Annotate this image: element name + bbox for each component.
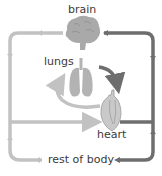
oxygenated-path <box>99 30 156 163</box>
heart-icon <box>101 90 121 131</box>
label-lungs: lungs <box>44 56 74 68</box>
label-heart: heart <box>97 129 126 141</box>
deoxygenated-path <box>7 30 100 163</box>
label-rest-of-body: rest of body <box>48 154 114 166</box>
label-brain: brain <box>68 4 96 16</box>
brain-icon <box>66 16 100 50</box>
circulation-diagram: brain lungs heart rest of body <box>0 0 162 176</box>
